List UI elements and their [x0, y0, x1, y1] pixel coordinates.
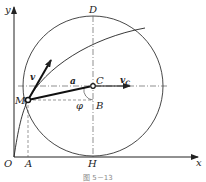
angle-phi-arc: [84, 88, 93, 100]
point-C: [91, 84, 96, 89]
label-O: O: [4, 158, 12, 169]
trajectory-curve: [14, 28, 145, 157]
label-A: A: [24, 158, 32, 169]
label-C: C: [96, 75, 104, 86]
label-x: x: [196, 157, 202, 168]
acceleration-a-line: [28, 87, 90, 101]
label-a: a: [70, 76, 76, 86]
label-H: H: [87, 158, 97, 169]
label-M: M: [14, 95, 26, 106]
point-M: [26, 98, 31, 103]
label-phi: φ: [76, 100, 83, 111]
label-vC: vC: [120, 75, 130, 86]
figure-caption: 图 5－13: [83, 174, 113, 182]
label-D: D: [88, 4, 97, 15]
label-B: B: [95, 100, 103, 111]
motion-diagram: y x O A H D C B M v a vC φ 图 5－13: [0, 0, 206, 182]
label-v: v: [30, 72, 36, 82]
label-y: y: [4, 4, 11, 15]
